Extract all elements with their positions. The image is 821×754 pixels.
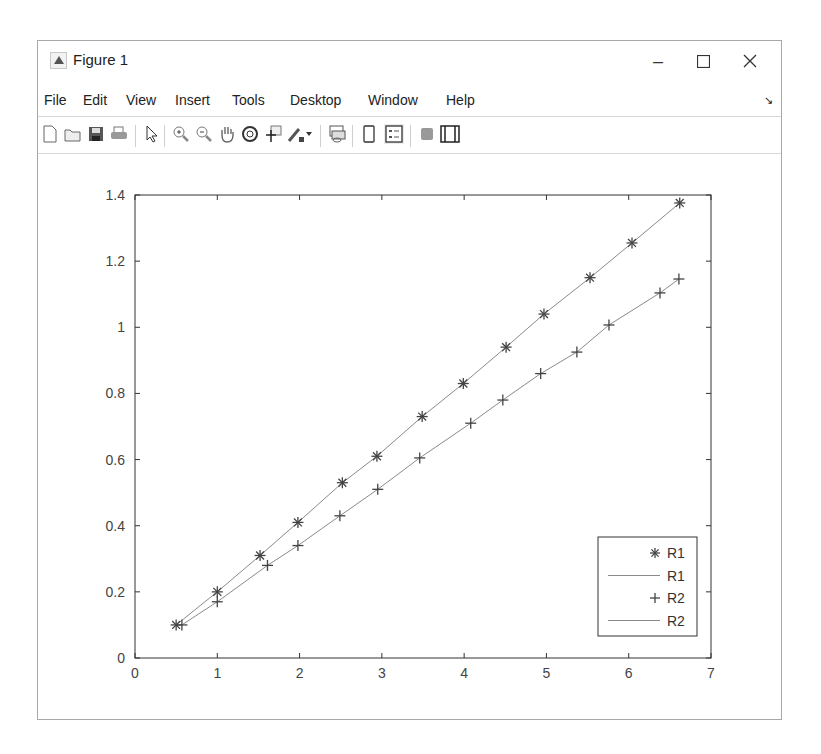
x-tick-label: 7 xyxy=(707,665,715,681)
legend[interactable]: R1R1R2R2 xyxy=(598,537,697,636)
asterisk-marker xyxy=(501,342,512,353)
y-tick-label: 0.8 xyxy=(106,385,126,401)
asterisk-marker xyxy=(674,197,685,208)
x-tick-label: 4 xyxy=(460,665,468,681)
asterisk-marker xyxy=(538,309,549,320)
x-tick-label: 2 xyxy=(296,665,304,681)
asterisk-marker xyxy=(585,272,596,283)
asterisk-marker xyxy=(650,548,660,558)
y-tick-label: 1.2 xyxy=(106,253,126,269)
asterisk-marker xyxy=(458,378,469,389)
x-tick-label: 3 xyxy=(378,665,386,681)
x-tick-label: 1 xyxy=(213,665,221,681)
asterisk-marker xyxy=(292,517,303,528)
x-tick-label: 0 xyxy=(131,665,139,681)
asterisk-marker xyxy=(212,586,223,597)
y-tick-label: 0 xyxy=(117,650,125,666)
x-tick-label: 5 xyxy=(543,665,551,681)
asterisk-marker xyxy=(417,411,428,422)
asterisk-marker xyxy=(627,237,638,248)
legend-entry-label: R2 xyxy=(667,590,685,606)
asterisk-marker xyxy=(255,550,266,561)
legend-entry-label: R2 xyxy=(667,613,685,629)
legend-entry-label: R1 xyxy=(667,545,685,561)
asterisk-marker xyxy=(371,451,382,462)
x-tick-label: 6 xyxy=(625,665,633,681)
legend-entry-label: R1 xyxy=(667,568,685,584)
y-tick-label: 1.4 xyxy=(106,187,126,203)
y-tick-label: 0.6 xyxy=(106,452,126,468)
asterisk-marker xyxy=(337,477,348,488)
y-tick-label: 0.2 xyxy=(106,584,126,600)
y-tick-label: 0.4 xyxy=(106,518,126,534)
line-chart[interactable]: 0123456700.20.40.60.811.21.4 R1R1R2R2 xyxy=(0,0,821,754)
y-tick-label: 1 xyxy=(117,319,125,335)
